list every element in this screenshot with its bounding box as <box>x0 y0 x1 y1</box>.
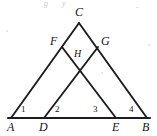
segment-CB <box>79 23 147 118</box>
scan-artifact-top-mid: y <box>62 0 66 8</box>
scan-speck-right <box>148 44 150 46</box>
point-label-C: C <box>75 6 83 18</box>
point-label-G: G <box>101 35 110 47</box>
scan-artifact-top-right: - <box>136 4 139 12</box>
angle-label-2: 2 <box>55 105 60 114</box>
point-label-A: A <box>7 121 14 133</box>
angle-label-1: 1 <box>21 105 26 114</box>
scan-artifact-top-left: g <box>44 0 48 8</box>
scan-speck-mid <box>101 72 103 74</box>
point-label-B: B <box>142 121 149 133</box>
point-label-H: H <box>74 49 81 59</box>
point-label-D: D <box>39 121 48 133</box>
scan-speck-left <box>6 30 8 32</box>
point-label-E: E <box>112 121 119 133</box>
figure-canvas <box>0 0 157 136</box>
point-label-F: F <box>50 35 57 47</box>
geometry-figure: A D E B C F G H 1 2 3 4 g y - <box>0 0 157 136</box>
angle-label-4: 4 <box>129 105 134 114</box>
angle-label-3: 3 <box>93 105 98 114</box>
